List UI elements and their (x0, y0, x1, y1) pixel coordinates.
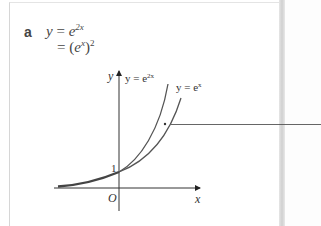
intercept-label: 1 (111, 162, 117, 174)
point-marker (164, 123, 166, 125)
curve-e-x-label-exp: x (198, 81, 202, 89)
curve-e-2x (119, 84, 168, 172)
y-axis-label: y (107, 69, 114, 83)
curve-e-x-label: y = ex (176, 81, 202, 93)
curves-left-tail (58, 172, 119, 187)
curve-e-2x-label-lhs: y = e (125, 72, 147, 84)
exponential-graph: y x O 1 y = e2x y = ex (0, 0, 321, 226)
curve-e-2x-label-exp: 2x (147, 72, 155, 80)
curve-e-x (119, 98, 181, 172)
origin-label: O (108, 191, 117, 205)
curve-e-2x-label: y = e2x (125, 72, 155, 84)
curve-e-x-label-lhs: y = e (176, 81, 198, 93)
x-axis-label: x (194, 192, 201, 206)
